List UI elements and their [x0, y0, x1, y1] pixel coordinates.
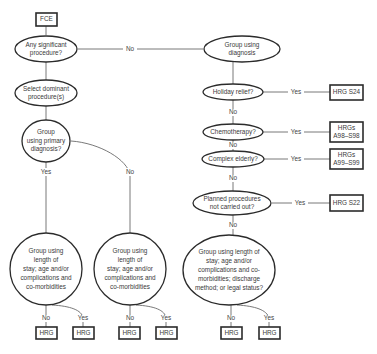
outcome-hrg-bottom-3: HRG — [119, 327, 140, 339]
svg-text:HRG: HRG — [39, 329, 53, 336]
svg-text:HRG: HRG — [262, 329, 276, 336]
edge-label-yes: Yes — [291, 155, 301, 162]
edge-label-no: No — [42, 314, 51, 321]
node-any-significant-procedure: Any significant procedure? — [15, 36, 77, 62]
svg-text:stay; age and/or: stay; age and/or — [107, 265, 154, 273]
node-los-grouping-diagnosis: Group using length of stay; age and/or c… — [183, 235, 275, 305]
edge-label-yes: Yes — [291, 88, 301, 95]
edge-label-no: No — [126, 314, 135, 321]
edge-label-no: No — [229, 108, 238, 115]
node-los-grouping-primary-no: Group using length of stay; age and/or c… — [94, 233, 166, 305]
outcome-hrg-bottom-2: HRG — [73, 327, 94, 339]
edge-label-no: No — [126, 45, 135, 52]
edge-label-yes: Yes — [161, 314, 171, 321]
outcome-hrg-s24: HRG S24 — [330, 85, 363, 100]
outcome-hrg-bottom-6: HRG — [259, 327, 280, 339]
svg-text:A98–S98: A98–S98 — [333, 132, 360, 139]
fce-start-box: FCE — [36, 13, 57, 26]
svg-text:HRG: HRG — [159, 329, 173, 336]
svg-text:Planned procedures: Planned procedures — [203, 195, 260, 203]
edge-label-no: No — [229, 174, 238, 181]
svg-text:HRG S24: HRG S24 — [333, 88, 361, 95]
svg-text:Complex elderly?: Complex elderly? — [208, 155, 258, 163]
svg-text:not carried out?: not carried out? — [210, 203, 255, 210]
svg-text:Group: Group — [37, 128, 55, 136]
svg-text:length of: length of — [118, 256, 143, 264]
svg-text:diagnosis: diagnosis — [228, 49, 255, 57]
svg-text:using primary: using primary — [27, 137, 66, 145]
svg-text:co-morbidities: co-morbidities — [110, 283, 150, 290]
svg-text:complications and co-: complications and co- — [198, 266, 260, 274]
edge-label-yes: Yes — [295, 199, 305, 206]
svg-text:Any significant: Any significant — [25, 41, 66, 49]
svg-text:Holiday relief?: Holiday relief? — [213, 88, 254, 96]
outcome-hrg-s22: HRG S22 — [330, 195, 363, 211]
svg-text:Group using length of: Group using length of — [198, 248, 259, 256]
svg-text:diagnosis?: diagnosis? — [31, 145, 62, 153]
svg-text:method; or legal status?: method; or legal status? — [195, 284, 264, 292]
svg-text:complications and: complications and — [104, 274, 156, 282]
svg-text:HRG S22: HRG S22 — [333, 199, 361, 206]
outcome-hrgs-a98-s98: HRGs A98–S98 — [330, 122, 363, 142]
svg-text:morbidities; discharge: morbidities; discharge — [198, 275, 261, 283]
svg-text:procedure(s): procedure(s) — [28, 93, 64, 101]
node-planned-procedures-not-carried-out: Planned procedures not carried out? — [193, 191, 271, 215]
svg-text:stay; age and/or: stay; age and/or — [206, 257, 253, 265]
outcome-hrg-bottom-5: HRG — [221, 327, 242, 339]
node-group-using-diagnosis: Group using diagnosis — [204, 36, 280, 62]
edge-label-yes: Yes — [78, 314, 88, 321]
svg-text:Group using: Group using — [225, 41, 260, 49]
fce-label: FCE — [40, 15, 53, 22]
svg-text:A99–S99: A99–S99 — [333, 159, 360, 166]
node-complex-elderly: Complex elderly? — [202, 151, 264, 167]
svg-text:stay; age and/or: stay; age and/or — [23, 265, 70, 273]
svg-text:Chemotherapy?: Chemotherapy? — [210, 128, 256, 136]
edge-label-yes: Yes — [264, 314, 274, 321]
edge-label-yes: Yes — [41, 168, 51, 175]
svg-text:HRG: HRG — [122, 329, 136, 336]
outcome-hrg-bottom-1: HRG — [36, 327, 57, 339]
edge-label-no: No — [227, 314, 236, 321]
svg-text:length of: length of — [34, 256, 59, 264]
svg-text:HRG: HRG — [224, 329, 238, 336]
outcome-hrgs-a99-s99: HRGs A99–S99 — [330, 149, 363, 169]
node-chemotherapy: Chemotherapy? — [203, 124, 263, 140]
svg-text:HRGs: HRGs — [338, 124, 355, 131]
node-group-primary-diagnosis: Group using primary diagnosis? — [22, 120, 70, 162]
svg-text:Select dominant: Select dominant — [23, 85, 69, 92]
node-holiday-relief: Holiday relief? — [203, 84, 263, 100]
hrg-flowchart: No Yes No No Yes No Yes No No No No Yes … — [0, 0, 377, 354]
svg-text:Group using: Group using — [113, 247, 148, 255]
node-los-grouping-primary-yes: Group using length of stay; age and/or c… — [10, 233, 82, 305]
svg-text:HRG: HRG — [76, 329, 90, 336]
edge-label-no: No — [229, 221, 238, 228]
svg-text:co-morbidities: co-morbidities — [26, 283, 66, 290]
svg-text:procedure?: procedure? — [30, 49, 63, 57]
node-select-dominant-procedure: Select dominant procedure(s) — [15, 80, 77, 106]
svg-text:HRGs: HRGs — [338, 151, 355, 158]
svg-text:Group using: Group using — [29, 247, 64, 255]
svg-text:complications and: complications and — [20, 274, 72, 282]
edge-label-no: No — [126, 168, 135, 175]
outcome-hrg-bottom-4: HRG — [156, 327, 177, 339]
edge-label-yes: Yes — [291, 128, 301, 135]
edge-label-no: No — [229, 141, 238, 148]
connector-primary-no — [71, 141, 130, 233]
